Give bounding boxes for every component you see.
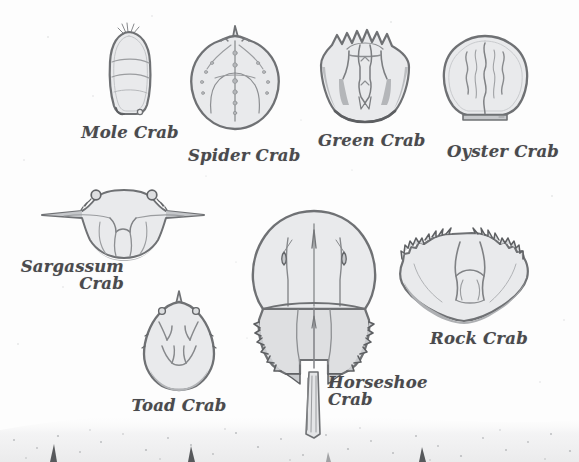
figure-toad-crab <box>134 290 224 392</box>
label-sargassum-crab: SargassumCrab <box>2 258 124 293</box>
crab-identification-chart: Mole Crab <box>0 0 579 462</box>
figure-oyster-crab <box>437 30 534 127</box>
label-spider-crab: Spider Crab <box>188 147 298 165</box>
label-green-crab: Green Crab <box>318 132 422 150</box>
label-toad-crab: Toad Crab <box>127 397 231 415</box>
label-horseshoe-crab-line2: Crab <box>328 390 373 409</box>
label-horseshoe-crab: HorseshoeCrab <box>328 374 438 409</box>
label-oyster-crab: Oyster Crab <box>447 143 547 161</box>
figure-rock-crab <box>394 228 536 330</box>
label-sargassum-crab-line1: Sargassum <box>21 257 124 276</box>
figure-spider-crab <box>185 25 285 132</box>
figure-green-crab <box>313 27 417 129</box>
label-rock-crab: Rock Crab <box>425 330 533 348</box>
label-horseshoe-crab-line1: Horseshoe <box>328 373 428 392</box>
label-mole-crab: Mole Crab <box>78 124 182 142</box>
label-sargassum-crab-line2: Crab <box>79 274 124 293</box>
figure-sargassum-crab <box>36 186 208 266</box>
figure-mole-crab <box>97 22 163 122</box>
